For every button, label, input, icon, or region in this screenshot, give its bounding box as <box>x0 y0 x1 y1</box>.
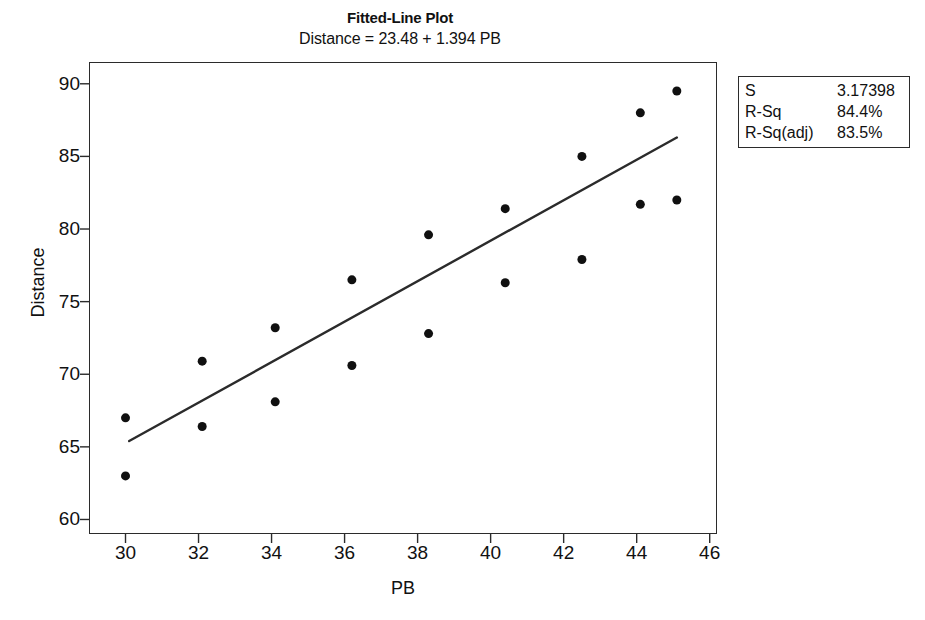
statistics-legend-box: S3.17398R-Sq84.4%R-Sq(adj)83.5% <box>738 76 910 148</box>
x-tick-label: 30 <box>101 543 151 563</box>
x-axis-title: PB <box>89 578 717 599</box>
stats-key: S <box>745 80 837 101</box>
y-tick-label: 60 <box>34 509 80 528</box>
x-tick-label: 38 <box>393 543 443 563</box>
stats-row: S3.17398 <box>739 80 909 101</box>
stats-row: R-Sq(adj)83.5% <box>739 122 909 143</box>
x-tick-label: 40 <box>466 543 516 563</box>
x-axis-tick-labels: 303234363840424446 <box>0 543 925 573</box>
stats-key: R-Sq(adj) <box>745 122 837 143</box>
y-tick-label: 90 <box>34 74 80 93</box>
stats-value: 3.17398 <box>837 80 903 101</box>
x-tick-label: 34 <box>247 543 297 563</box>
stats-key: R-Sq <box>745 101 837 122</box>
title-block: Fitted-Line Plot Distance = 23.48 + 1.39… <box>90 8 710 50</box>
fitted-line-plot-figure: Fitted-Line Plot Distance = 23.48 + 1.39… <box>0 0 925 620</box>
x-tick-label: 44 <box>612 543 662 563</box>
x-tick-label: 46 <box>685 543 735 563</box>
stats-value: 84.4% <box>837 101 903 122</box>
x-tick-label: 42 <box>539 543 589 563</box>
stats-row: R-Sq84.4% <box>739 101 909 122</box>
chart-subtitle-equation: Distance = 23.48 + 1.394 PB <box>90 28 710 50</box>
y-axis-title: Distance <box>28 223 49 343</box>
x-tick-label: 32 <box>174 543 224 563</box>
y-tick-label: 85 <box>34 146 80 165</box>
plot-area-frame <box>89 62 717 534</box>
y-tick-label: 65 <box>34 437 80 456</box>
stats-value: 83.5% <box>837 122 903 143</box>
y-tick-label: 70 <box>34 364 80 383</box>
chart-title: Fitted-Line Plot <box>90 8 710 28</box>
x-tick-label: 36 <box>320 543 370 563</box>
